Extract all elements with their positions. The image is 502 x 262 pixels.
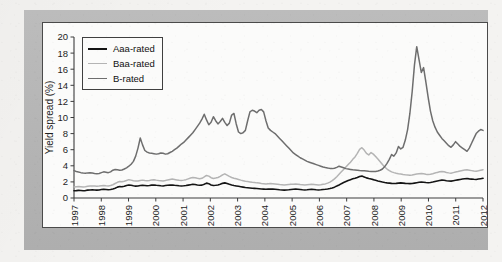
y-tick-label: 8 [63, 128, 68, 139]
y-tick-label: 0 [63, 192, 68, 203]
x-tick-label: 2008 [369, 205, 380, 226]
x-tick-label: 2011 [450, 205, 461, 225]
y-tick-label: 14 [57, 80, 68, 91]
x-tick-label: 2004 [259, 205, 270, 226]
y-tick-label: 10 [57, 112, 68, 123]
x-tick-label: 1997 [69, 205, 80, 226]
x-tick-label: 2007 [341, 205, 352, 226]
x-tick-label: 2002 [205, 205, 216, 226]
x-tick-label: 1998 [96, 205, 107, 226]
y-axis-title: Yield spread (%) [44, 81, 55, 155]
y-tick-label: 12 [57, 96, 68, 107]
y-tick-label: 6 [63, 144, 68, 155]
y-tick-label: 20 [57, 31, 68, 42]
y-tick-label: 16 [57, 64, 68, 75]
legend-item-b-rated: B-rated [88, 71, 155, 86]
legend-item-baa-rated: Baa-rated [88, 56, 155, 71]
legend-label: Aaa-rated [113, 44, 155, 54]
x-tick-label: 2000 [150, 205, 161, 226]
x-tick-label: 2012 [478, 205, 488, 226]
figure-screenshot: 0246810121416182019971998199920002001200… [0, 0, 502, 262]
chart-panel: 0246810121416182019971998199920002001200… [42, 22, 488, 228]
x-tick-label: 2005 [287, 205, 298, 226]
y-tick-label: 18 [57, 48, 68, 59]
x-tick-label: 2010 [423, 205, 434, 226]
x-tick-label: 2009 [396, 205, 407, 226]
series-line-baa-rated [74, 148, 483, 187]
legend-swatch-line [88, 63, 107, 64]
legend-label: B-rated [113, 74, 144, 84]
x-tick-label: 1999 [123, 205, 134, 226]
x-tick-label: 2006 [314, 205, 325, 226]
y-tick-label: 4 [63, 160, 68, 171]
legend-swatch-line [88, 78, 107, 79]
x-tick-label: 2001 [178, 205, 189, 226]
x-tick-label: 2003 [232, 205, 243, 226]
legend-item-aaa-rated: Aaa-rated [88, 41, 155, 56]
y-tick-label: 2 [63, 176, 68, 187]
legend-label: Baa-rated [113, 59, 155, 69]
chart-legend: Aaa-ratedBaa-ratedB-rated [82, 37, 163, 90]
series-line-aaa-rated [74, 176, 483, 191]
legend-swatch-line [88, 48, 107, 50]
